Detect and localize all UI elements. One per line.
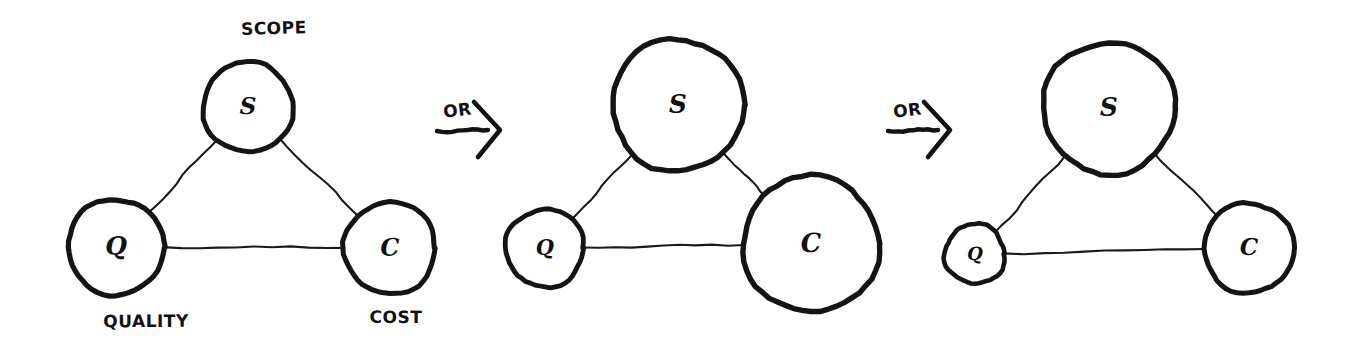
caption-scope: SCOPE bbox=[241, 17, 307, 39]
panel-balanced-triangle: SQCSCOPEQUALITYCOST bbox=[68, 17, 435, 331]
arrow-shaft bbox=[437, 129, 488, 132]
node-letter-c: C bbox=[800, 228, 822, 259]
panel-quality-shrunk: SQC bbox=[944, 43, 1295, 293]
arrow-shaft bbox=[888, 129, 938, 131]
or-label: OR bbox=[442, 98, 472, 121]
edge-s-c bbox=[279, 138, 358, 216]
edge-q-s bbox=[571, 153, 634, 221]
edge-q-c bbox=[583, 245, 744, 248]
or-arrow-1: OR bbox=[437, 98, 500, 157]
or-arrow-2: OR bbox=[888, 98, 950, 157]
edge-q-c bbox=[163, 246, 345, 248]
node-letter-q: Q bbox=[967, 243, 983, 264]
diagram-canvas: SQCSCOPEQUALITYCOSTSQCSQCOROR bbox=[0, 0, 1361, 345]
caption-quality: QUALITY bbox=[103, 311, 189, 332]
node-letter-q: Q bbox=[535, 234, 554, 260]
node-letter-c: C bbox=[380, 232, 400, 261]
caption-cost: COST bbox=[370, 307, 423, 327]
node-letter-s: S bbox=[239, 92, 256, 119]
edge-s-c bbox=[723, 152, 765, 196]
panel-scope-and-cost-grown: SQC bbox=[505, 39, 880, 312]
edge-q-c bbox=[1004, 249, 1205, 254]
node-letter-s: S bbox=[669, 89, 688, 118]
edge-s-c bbox=[1155, 154, 1218, 217]
edge-q-s bbox=[148, 139, 218, 213]
node-letter-q: Q bbox=[105, 231, 127, 260]
edge-q-s bbox=[995, 156, 1065, 233]
or-label: OR bbox=[892, 98, 922, 121]
node-letter-c: C bbox=[1240, 233, 1259, 260]
node-letter-s: S bbox=[1100, 92, 1119, 121]
triangle-tradeoff-sketch: SQCSCOPEQUALITYCOSTSQCSQCOROR bbox=[0, 0, 1361, 345]
